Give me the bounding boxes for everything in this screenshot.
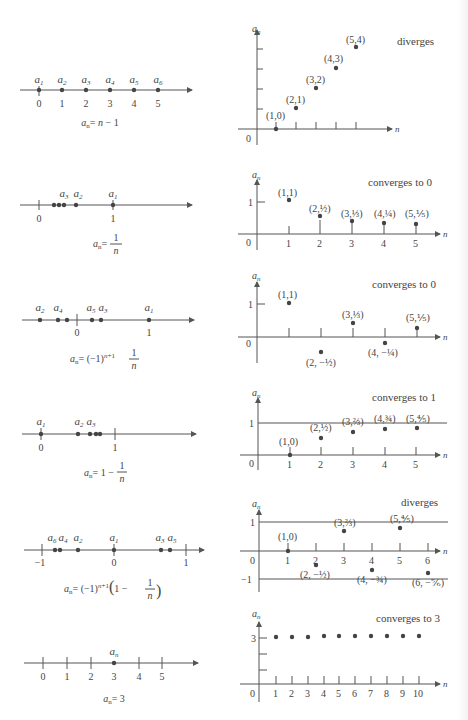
svg-text:0: 0 bbox=[75, 327, 80, 338]
svg-text:a3: a3 bbox=[60, 187, 70, 201]
svg-text:1: 1 bbox=[285, 555, 290, 566]
svg-text:1: 1 bbox=[114, 232, 119, 243]
svg-text:0: 0 bbox=[249, 458, 254, 469]
page-edge-shadow bbox=[458, 0, 468, 720]
svg-text:n: n bbox=[443, 450, 448, 460]
svg-text:an: an bbox=[252, 169, 261, 182]
svg-text:0: 0 bbox=[37, 213, 42, 224]
number-line-5: −101 a6 a4 a2 a1 a3 a5 an= (−1)n+1(1 − 1… bbox=[24, 531, 204, 601]
svg-text:a6: a6 bbox=[154, 73, 164, 87]
verdict-1: diverges bbox=[397, 35, 434, 47]
svg-text:(5,⅕): (5,⅕) bbox=[406, 312, 430, 324]
svg-text:an: an bbox=[252, 608, 261, 621]
svg-text:3: 3 bbox=[108, 98, 113, 109]
svg-text:9: 9 bbox=[400, 688, 405, 699]
svg-text:4: 4 bbox=[382, 459, 387, 470]
svg-text:(4,¾): (4,¾) bbox=[374, 413, 396, 425]
svg-text:an: an bbox=[252, 23, 261, 36]
svg-text:(1,0): (1,0) bbox=[279, 436, 298, 448]
svg-text:an= (−1)n+1(1 −: an= (−1)n+1(1 − bbox=[64, 578, 128, 596]
svg-text:(3,⅓): (3,⅓) bbox=[342, 309, 364, 321]
svg-text:1: 1 bbox=[60, 98, 65, 109]
svg-text:a1: a1 bbox=[35, 73, 44, 87]
svg-text:an= (−1)n+1: an= (−1)n+1 bbox=[70, 352, 115, 366]
sequence-figure: 012 345 a1 a2 a3 a4 a5 a6 an= n − 1 (1,0… bbox=[0, 0, 468, 720]
svg-text:−1: −1 bbox=[241, 574, 252, 585]
number-line-4: 01 a1 a2 a3 an= 1 − 1 n bbox=[22, 415, 196, 484]
svg-text:10: 10 bbox=[413, 688, 423, 699]
plot-5: (1,0)(2, −½)(3,⅔) (4, −¾)(5,⅘)(6, −⅚) 01… bbox=[240, 496, 448, 592]
svg-text:(4,3): (4,3) bbox=[324, 53, 343, 65]
svg-text:n: n bbox=[443, 679, 448, 689]
svg-text:an=: an= bbox=[93, 238, 108, 251]
svg-text:0: 0 bbox=[246, 133, 251, 144]
svg-text:a1: a1 bbox=[110, 531, 119, 545]
svg-text:a5: a5 bbox=[87, 301, 97, 315]
svg-text:n: n bbox=[114, 245, 119, 256]
svg-text:1: 1 bbox=[250, 517, 255, 528]
svg-text:a3: a3 bbox=[99, 301, 109, 315]
svg-text:n: n bbox=[132, 360, 137, 371]
svg-text:an= 1 −: an= 1 − bbox=[84, 467, 114, 480]
svg-text:4: 4 bbox=[369, 555, 374, 566]
svg-text:4: 4 bbox=[137, 671, 142, 682]
svg-text:a2: a2 bbox=[74, 187, 84, 201]
svg-text:1: 1 bbox=[248, 299, 253, 310]
plot-6: 03 12345 678910 converges to 3 an n bbox=[240, 608, 448, 702]
svg-text:1: 1 bbox=[286, 238, 291, 249]
svg-text:5: 5 bbox=[156, 98, 161, 109]
svg-text:(1,1): (1,1) bbox=[278, 187, 297, 199]
svg-text:(5,4): (5,4) bbox=[346, 34, 365, 46]
svg-text:0: 0 bbox=[250, 688, 255, 699]
svg-text:1: 1 bbox=[113, 442, 118, 453]
svg-text:(2, −½): (2, −½) bbox=[306, 357, 336, 369]
plot-1: (1,0)(2,1)(3,2) (4,3)(5,4) 0 diverges an… bbox=[238, 23, 434, 145]
svg-text:(3,⅔): (3,⅔) bbox=[342, 416, 364, 428]
svg-text:a5: a5 bbox=[130, 73, 140, 87]
svg-text:2: 2 bbox=[318, 459, 323, 470]
svg-text:an: an bbox=[252, 498, 261, 511]
svg-text:3: 3 bbox=[251, 633, 256, 644]
svg-text:an: an bbox=[110, 645, 120, 659]
svg-text:(1,1): (1,1) bbox=[278, 289, 297, 301]
svg-text:): ) bbox=[156, 582, 161, 600]
svg-text:(4,¼): (4,¼) bbox=[374, 208, 396, 220]
svg-text:1: 1 bbox=[184, 557, 189, 568]
svg-text:1: 1 bbox=[120, 460, 125, 471]
svg-text:4: 4 bbox=[132, 98, 137, 109]
svg-text:converges to 1: converges to 1 bbox=[372, 391, 436, 403]
svg-text:a2: a2 bbox=[75, 415, 85, 429]
svg-text:a4: a4 bbox=[106, 73, 116, 87]
svg-text:converges to 0: converges to 0 bbox=[372, 278, 436, 290]
svg-text:(5,⅘): (5,⅘) bbox=[390, 513, 414, 525]
svg-text:(2,½): (2,½) bbox=[309, 203, 331, 215]
svg-text:a4: a4 bbox=[59, 531, 69, 545]
svg-text:1: 1 bbox=[148, 577, 153, 588]
svg-text:a3: a3 bbox=[82, 73, 92, 87]
svg-text:(1,0): (1,0) bbox=[266, 110, 285, 122]
svg-text:2: 2 bbox=[289, 688, 294, 699]
svg-text:a3: a3 bbox=[87, 415, 97, 429]
formula-1: an= n − 1 bbox=[81, 117, 118, 130]
svg-text:0: 0 bbox=[37, 98, 42, 109]
svg-text:an: an bbox=[252, 270, 261, 283]
svg-text:6: 6 bbox=[425, 555, 430, 566]
svg-text:5: 5 bbox=[397, 555, 402, 566]
svg-text:a2: a2 bbox=[58, 73, 68, 87]
svg-text:4: 4 bbox=[321, 688, 326, 699]
svg-text:1: 1 bbox=[147, 327, 152, 338]
svg-text:4: 4 bbox=[381, 238, 386, 249]
svg-text:(1,0): (1,0) bbox=[278, 531, 297, 543]
svg-text:n: n bbox=[120, 473, 125, 484]
svg-text:(2,½): (2,½) bbox=[310, 422, 332, 434]
svg-text:(3,⅔): (3,⅔) bbox=[334, 517, 356, 529]
svg-text:diverges: diverges bbox=[401, 496, 438, 508]
svg-text:(2,1): (2,1) bbox=[286, 94, 305, 106]
svg-text:a2: a2 bbox=[74, 531, 84, 545]
svg-text:7: 7 bbox=[368, 688, 373, 699]
plot-4: (1,0)(2,½)(3,⅔) (4,¾)(5,⅘) 01 12345 conv… bbox=[240, 387, 448, 470]
number-line-3: 01 a2 a4 a5 a3 a1 an= (−1)n+1 1 n bbox=[22, 301, 194, 371]
svg-text:5: 5 bbox=[413, 459, 418, 470]
svg-text:1: 1 bbox=[111, 213, 116, 224]
svg-text:n: n bbox=[395, 124, 400, 134]
